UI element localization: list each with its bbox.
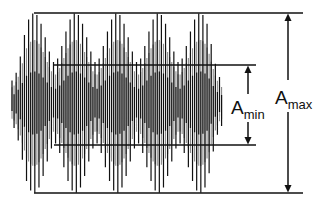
- beat-waveform-diagram: [0, 0, 319, 206]
- amin-label: Amin: [231, 98, 265, 117]
- amax-label-main: A: [275, 87, 288, 108]
- amin-label-main: A: [231, 97, 244, 118]
- beat-waveform: [12, 13, 222, 192]
- amax-label-subscript: max: [288, 97, 313, 112]
- amax-label: Amax: [275, 88, 312, 107]
- amin-label-subscript: min: [244, 107, 265, 122]
